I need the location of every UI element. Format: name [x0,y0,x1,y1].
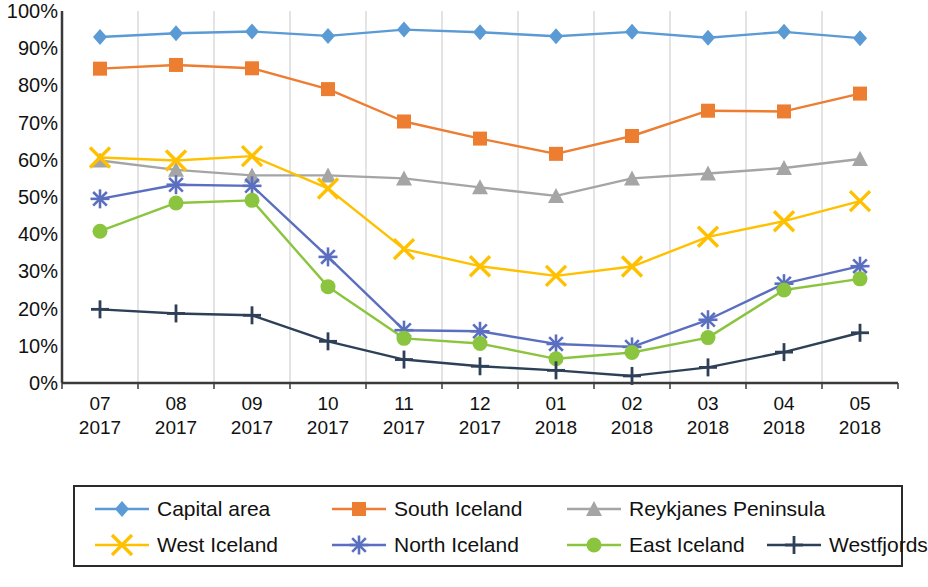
legend-item-reykjanes-peninsula[interactable]: Reykjanes Peninsula [565,492,825,526]
data-point-marker [698,227,718,247]
x-tick-month: 03 [668,392,748,416]
data-point-marker [394,239,414,259]
data-point-marker [93,29,107,45]
data-point-marker [397,22,411,38]
x-axis-tick-label: 042018 [744,392,824,440]
x-tick-month: 12 [440,392,520,416]
x-tick-year: 2017 [60,416,140,440]
data-point-marker [853,30,867,46]
data-point-marker [319,332,337,350]
x-axis-tick-labels: 0720170820170920171020171120171220170120… [0,392,913,452]
data-point-marker [91,189,110,208]
legend-label: Capital area [157,497,270,521]
data-point-marker [243,306,261,324]
data-point-marker [853,87,867,101]
data-point-marker [701,330,716,345]
data-point-marker [352,502,366,516]
data-point-marker [321,82,335,96]
data-point-marker [397,331,412,346]
series-markers-south-iceland [93,58,867,161]
x-tick-month: 11 [364,392,444,416]
x-axis-tick-label: 112017 [364,392,444,440]
x-axis-tick-label: 022018 [592,392,672,440]
data-point-marker [625,129,639,143]
data-point-marker [243,176,262,195]
data-point-marker [319,247,338,266]
data-point-marker [549,28,563,44]
data-point-marker [169,25,183,41]
data-point-marker [785,536,803,554]
plot-canvas [0,0,913,455]
legend-row-2: West IcelandNorth IcelandEast IcelandWes… [75,528,901,562]
line-chart: 100%90%80%70%60%50%40%30%20%10%0% 072017… [0,0,913,455]
data-point-marker [775,343,793,361]
legend-marker-asterisk-icon [330,530,388,560]
data-point-marker [850,191,870,211]
data-point-marker [851,324,869,342]
data-point-marker [167,175,186,194]
data-point-marker [397,114,411,128]
data-point-marker [473,132,487,146]
legend-label: Reykjanes Peninsula [629,497,825,521]
data-point-marker [91,300,109,318]
legend-marker-square-icon [330,494,388,524]
x-tick-month: 07 [60,392,140,416]
data-point-marker [587,538,602,553]
legend-item-westfjords[interactable]: Westfjords [765,528,928,562]
data-point-marker [167,304,185,322]
x-tick-year: 2018 [516,416,596,440]
data-point-marker [853,271,868,286]
x-tick-year: 2018 [744,416,824,440]
data-point-marker [169,195,184,210]
data-point-marker [115,501,129,517]
chart-legend: Capital areaSouth IcelandReykjanes Penin… [73,485,903,567]
data-point-marker [777,104,791,118]
x-axis-tick-label: 012018 [516,392,596,440]
data-point-marker [245,61,259,75]
legend-item-east-iceland[interactable]: East Iceland [565,528,745,562]
data-point-marker [321,28,335,44]
x-axis-tick-label: 072017 [60,392,140,440]
data-point-marker [245,23,259,39]
data-point-marker [701,30,715,46]
data-point-marker [774,211,794,231]
x-tick-month: 05 [820,392,900,416]
x-tick-month: 09 [212,392,292,416]
legend-label: North Iceland [394,533,519,557]
legend-item-north-iceland[interactable]: North Iceland [330,528,519,562]
x-tick-month: 02 [592,392,672,416]
legend-item-west-iceland[interactable]: West Iceland [93,528,278,562]
data-point-marker [93,62,107,76]
data-point-marker [699,310,718,329]
data-point-marker [547,361,565,379]
data-point-marker [93,224,108,239]
x-tick-year: 2017 [288,416,368,440]
data-point-marker [245,193,260,208]
data-point-marker [473,24,487,40]
data-point-marker [321,279,336,294]
data-point-marker [777,283,792,298]
data-point-marker [169,58,183,72]
legend-label: East Iceland [629,533,745,557]
x-tick-month: 04 [744,392,824,416]
x-axis-tick-label: 122017 [440,392,520,440]
data-point-marker [699,358,717,376]
x-tick-year: 2017 [212,416,292,440]
series-markers-east-iceland [93,193,868,366]
x-tick-month: 01 [516,392,596,416]
x-axis-tick-label: 032018 [668,392,748,440]
data-point-marker [547,334,566,353]
x-axis-tick-label: 102017 [288,392,368,440]
x-axis-tick-label: 092017 [212,392,292,440]
legend-item-south-iceland[interactable]: South Iceland [330,492,522,526]
x-tick-year: 2018 [668,416,748,440]
data-point-marker [473,336,488,351]
legend-marker-diamond-icon [93,494,151,524]
legend-item-capital-area[interactable]: Capital area [93,492,270,526]
x-axis-tick-label: 082017 [136,392,216,440]
data-point-marker [350,536,369,555]
data-point-marker [777,24,791,40]
data-point-marker [625,24,639,40]
legend-marker-triangle-icon [565,494,623,524]
